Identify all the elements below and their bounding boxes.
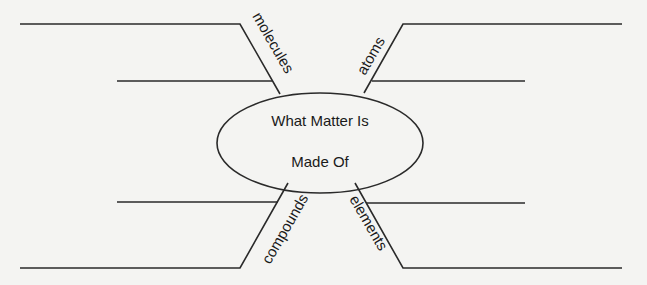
center-ellipse <box>217 93 423 193</box>
center-title-line1: What Matter Is <box>271 112 369 129</box>
spider-map-diagram: What Matter Is Made Of molecules atoms c… <box>0 0 647 285</box>
branch-molecules-label: molecules <box>249 9 297 76</box>
branch-atoms-label: atoms <box>353 34 388 78</box>
branch-elements-label: elements <box>346 192 391 253</box>
branch-elements: elements <box>346 183 622 268</box>
branch-elements-leg <box>355 183 622 268</box>
branch-molecules-leg <box>20 24 280 94</box>
branch-atoms-leg <box>364 24 622 93</box>
branch-compounds-leg <box>20 183 288 268</box>
branch-molecules: molecules <box>20 9 298 94</box>
branch-compounds: compounds <box>20 183 311 268</box>
center-title-line2: Made Of <box>291 153 349 170</box>
branch-atoms: atoms <box>353 24 622 93</box>
